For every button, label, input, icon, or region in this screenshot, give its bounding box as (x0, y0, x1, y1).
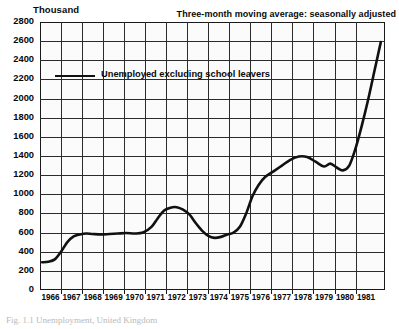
x-tick-mark (103, 290, 104, 294)
legend-line-swatch (55, 75, 95, 77)
figure-caption: Fig. 1.1 Unemployment, United Kingdom (6, 315, 157, 325)
x-tick-mark (61, 290, 62, 294)
legend-label: Unemployed excluding school leavers (101, 69, 270, 79)
y-tick-label: 1000 (0, 188, 34, 198)
x-tick-mark (313, 290, 314, 294)
y-tick-label: 2800 (0, 16, 34, 26)
x-tick-mark (145, 290, 146, 294)
y-tick-label: 600 (0, 227, 34, 237)
chart-subtitle: Three-month moving average: seasonally a… (177, 9, 396, 19)
x-tick-mark (166, 290, 167, 294)
y-tick-label: 1400 (0, 150, 34, 160)
y-tick-label: 1200 (0, 169, 34, 179)
x-tick-mark (124, 290, 125, 294)
y-tick-label: 1800 (0, 112, 34, 122)
x-tick-label: 1981 (351, 293, 381, 302)
x-tick-mark (208, 290, 209, 294)
y-tick-label: 2000 (0, 93, 34, 103)
y-tick-label: 800 (0, 207, 34, 217)
y-tick-label: 400 (0, 246, 34, 256)
x-tick-mark (271, 290, 272, 294)
y-tick-label: 0 (0, 284, 34, 294)
x-tick-mark (250, 290, 251, 294)
series-unemployed-excluding-school-leavers (40, 22, 385, 290)
x-axis-tick-marks (40, 290, 385, 291)
y-tick-label: 2200 (0, 73, 34, 83)
x-tick-mark (292, 290, 293, 294)
x-tick-mark (335, 290, 336, 294)
y-tick-label: 2600 (0, 35, 34, 45)
y-axis-title: Thousand (33, 4, 79, 15)
x-tick-mark (82, 290, 83, 294)
x-tick-mark (356, 290, 357, 294)
x-tick-mark (229, 290, 230, 294)
x-tick-mark (187, 290, 188, 294)
y-tick-label: 2400 (0, 54, 34, 64)
y-tick-label: 200 (0, 265, 34, 275)
y-tick-label: 1600 (0, 131, 34, 141)
